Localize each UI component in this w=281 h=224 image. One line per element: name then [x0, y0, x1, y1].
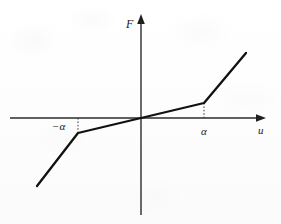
- horizontal-axis-label: u: [258, 125, 264, 136]
- right-arrow-icon: [256, 114, 266, 122]
- vertical-axis-label: F: [126, 18, 133, 30]
- tick-label-negative-alpha: −α: [52, 121, 65, 132]
- function-plot-svg: [0, 0, 281, 224]
- vertical-axis: [137, 14, 145, 215]
- figure-canvas: F u −α α: [0, 0, 281, 224]
- tick-label-positive-alpha: α: [201, 126, 207, 137]
- up-arrow-icon: [137, 14, 145, 24]
